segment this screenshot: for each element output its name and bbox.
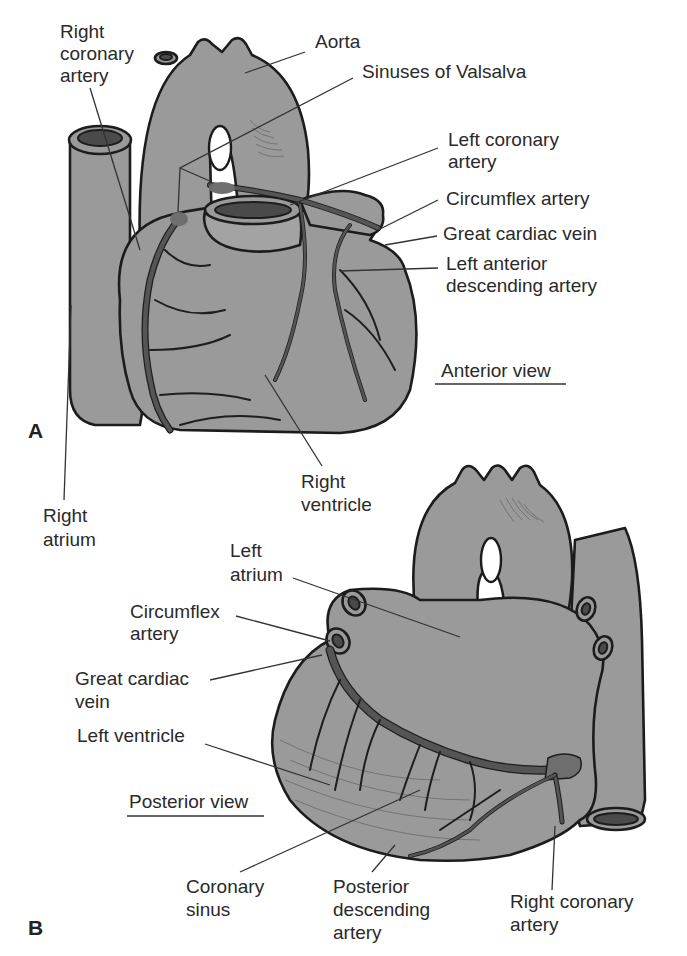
label-left-atrium: Left atrium xyxy=(230,540,283,585)
panel-letter-b: B xyxy=(28,916,43,939)
label-great-cardiac-vein-b: Great cardiac vein xyxy=(75,668,194,712)
label-sinuses-of-valsalva: Sinuses of Valsalva xyxy=(362,61,527,82)
anterior-view-illustration xyxy=(69,38,416,433)
label-anterior-view-title: Anterior view xyxy=(441,360,551,381)
label-aorta: Aorta xyxy=(315,31,361,52)
leader-circumflex-artery-b xyxy=(236,616,330,641)
leader-great-cardiac-vein-a xyxy=(385,236,437,245)
panel-letter-a: A xyxy=(28,419,43,442)
label-right-coronary-artery-a: Right coronary artery xyxy=(60,21,139,86)
label-coronary-sinus: Coronary sinus xyxy=(186,876,269,920)
label-left-ventricle: Left ventricle xyxy=(77,725,185,746)
label-circumflex-artery-b: Circumflex artery xyxy=(130,601,225,644)
label-posterior-descending-artery: Posterior descending artery xyxy=(333,876,435,943)
label-right-coronary-artery-b: Right coronary artery xyxy=(510,891,639,935)
label-circumflex-artery-a: Circumflex artery xyxy=(446,188,590,209)
leader-right-atrium xyxy=(64,305,71,500)
label-right-atrium: Right atrium xyxy=(43,505,96,550)
label-right-ventricle: Right ventricle xyxy=(301,471,372,515)
coronary-anatomy-figure: Right coronary artery Aorta Sinuses of V… xyxy=(0,0,687,956)
label-left-anterior-descending-artery: Left anterior descending artery xyxy=(446,253,598,296)
label-posterior-view-title: Posterior view xyxy=(129,791,249,812)
leader-circumflex-artery-a xyxy=(378,200,438,230)
posterior-view-illustration xyxy=(272,465,645,860)
label-great-cardiac-vein-a: Great cardiac vein xyxy=(443,223,597,244)
label-left-coronary-artery-a: Left coronary artery xyxy=(448,129,564,172)
